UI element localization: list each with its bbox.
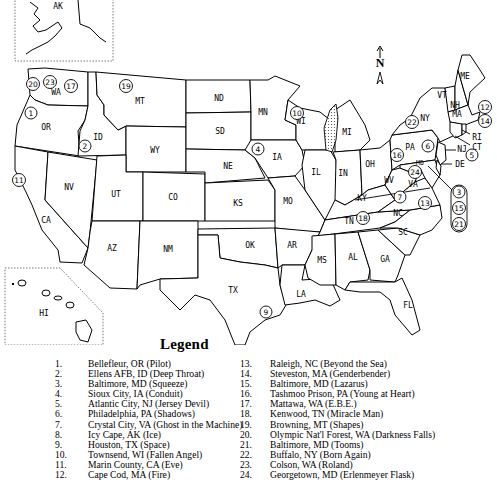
svg-text:16: 16 bbox=[392, 151, 402, 160]
svg-text:KS: KS bbox=[233, 199, 243, 208]
svg-text:12: 12 bbox=[480, 103, 490, 112]
hawaii-inset: HI bbox=[5, 268, 103, 345]
legend-item: 12.Cape Cod, MA (Fire) bbox=[55, 470, 242, 480]
marker-12[interactable]: 12 bbox=[479, 101, 492, 114]
marker-10[interactable]: 10 bbox=[291, 107, 304, 120]
compass: N bbox=[376, 46, 385, 84]
marker-3[interactable]: 3 bbox=[453, 186, 465, 198]
svg-text:ND: ND bbox=[214, 94, 224, 103]
state-ri bbox=[462, 124, 466, 135]
svg-text:MI: MI bbox=[342, 128, 352, 137]
svg-text:9: 9 bbox=[264, 308, 269, 317]
svg-text:MN: MN bbox=[258, 108, 268, 117]
svg-text:18: 18 bbox=[358, 214, 368, 223]
svg-text:CO: CO bbox=[168, 193, 178, 202]
legend-column-left: 1.Bellefleur, OR (Pilot) 2.Ellens AFB, I… bbox=[55, 359, 242, 480]
svg-text:NC: NC bbox=[393, 209, 403, 218]
svg-text:19: 19 bbox=[121, 82, 131, 91]
marker-6[interactable]: 6 bbox=[422, 140, 434, 152]
legend-item: 24.Georgetown, MD (Erlenmeyer Flask) bbox=[240, 470, 435, 480]
svg-text:13: 13 bbox=[420, 199, 430, 208]
marker-22[interactable]: 22 bbox=[406, 116, 419, 129]
svg-text:2: 2 bbox=[83, 142, 88, 151]
svg-text:RI: RI bbox=[472, 133, 482, 142]
svg-text:22: 22 bbox=[407, 118, 417, 127]
svg-text:TN: TN bbox=[344, 217, 354, 226]
marker-5[interactable]: 5 bbox=[466, 149, 478, 161]
svg-text:MO: MO bbox=[283, 197, 293, 206]
svg-text:MS: MS bbox=[317, 256, 327, 265]
marker-19[interactable]: 19 bbox=[120, 80, 133, 93]
marker-2[interactable]: 2 bbox=[79, 140, 91, 152]
svg-text:CA: CA bbox=[41, 216, 51, 225]
svg-text:21: 21 bbox=[454, 220, 464, 229]
svg-text:AL: AL bbox=[348, 253, 358, 262]
marker-24[interactable]: 24 bbox=[409, 166, 422, 179]
compass-n-label: N bbox=[376, 56, 385, 70]
svg-text:WY: WY bbox=[150, 146, 160, 155]
svg-text:FL: FL bbox=[403, 301, 413, 310]
marker-20[interactable]: 20 bbox=[27, 78, 40, 91]
marker-18[interactable]: 18 bbox=[357, 212, 370, 225]
svg-text:OR: OR bbox=[41, 123, 51, 132]
svg-text:15: 15 bbox=[454, 204, 464, 213]
marker-14[interactable]: 14 bbox=[479, 115, 492, 128]
marker-7[interactable]: 7 bbox=[394, 191, 406, 203]
marker-13[interactable]: 13 bbox=[419, 197, 432, 210]
states bbox=[15, 55, 485, 345]
svg-text:OK: OK bbox=[245, 241, 255, 250]
svg-text:NV: NV bbox=[64, 183, 74, 192]
svg-text:23: 23 bbox=[45, 78, 55, 87]
svg-text:20: 20 bbox=[28, 80, 38, 89]
marker-11[interactable]: 11 bbox=[13, 174, 26, 187]
svg-text:UT: UT bbox=[111, 190, 121, 199]
svg-text:NJ: NJ bbox=[457, 145, 467, 154]
svg-text:AR: AR bbox=[287, 241, 297, 250]
svg-text:IL: IL bbox=[311, 168, 321, 177]
svg-text:LA: LA bbox=[296, 290, 306, 299]
svg-text:14: 14 bbox=[480, 117, 490, 126]
svg-text:IN: IN bbox=[338, 169, 348, 178]
svg-text:ME: ME bbox=[460, 72, 470, 81]
svg-text:GA: GA bbox=[380, 255, 390, 264]
state-label-ak: AK bbox=[53, 2, 63, 11]
svg-text:NY: NY bbox=[420, 114, 430, 123]
svg-text:4: 4 bbox=[256, 145, 261, 154]
svg-text:17: 17 bbox=[66, 82, 76, 91]
svg-text:24: 24 bbox=[410, 168, 420, 177]
svg-text:NM: NM bbox=[163, 245, 173, 254]
svg-text:DE: DE bbox=[455, 160, 465, 169]
state-az bbox=[84, 221, 140, 289]
legend-title: Legend bbox=[160, 336, 209, 353]
svg-text:WV: WV bbox=[384, 176, 394, 185]
marker-4[interactable]: 4 bbox=[252, 143, 264, 155]
svg-text:AZ: AZ bbox=[107, 244, 117, 253]
marker-21[interactable]: 21 bbox=[453, 218, 466, 231]
svg-text:ID: ID bbox=[93, 133, 103, 142]
svg-text:VT: VT bbox=[437, 91, 447, 100]
svg-text:SC: SC bbox=[398, 228, 408, 237]
svg-text:10: 10 bbox=[292, 109, 302, 118]
us-map: AK HI bbox=[0, 0, 497, 345]
svg-text:IA: IA bbox=[272, 153, 282, 162]
legend-column-right: 13.Raleigh, NC (Beyond the Sea) 14.Steve… bbox=[240, 359, 435, 480]
marker-1[interactable]: 1 bbox=[25, 107, 37, 119]
svg-text:MT: MT bbox=[135, 97, 145, 106]
svg-text:6: 6 bbox=[426, 142, 431, 151]
marker-16[interactable]: 16 bbox=[391, 149, 404, 162]
alaska-inset: AK bbox=[15, 0, 113, 61]
state-mi bbox=[335, 100, 370, 152]
marker-17[interactable]: 17 bbox=[65, 80, 78, 93]
marker-15[interactable]: 15 bbox=[453, 202, 466, 215]
marker-23[interactable]: 23 bbox=[44, 76, 57, 89]
svg-text:1: 1 bbox=[29, 109, 34, 118]
svg-text:VA: VA bbox=[408, 180, 418, 189]
svg-text:11: 11 bbox=[14, 176, 24, 185]
svg-text:WA: WA bbox=[51, 88, 61, 97]
svg-text:NH: NH bbox=[450, 101, 460, 110]
marker-9[interactable]: 9 bbox=[260, 306, 272, 318]
svg-text:PA: PA bbox=[405, 143, 415, 152]
svg-text:5: 5 bbox=[470, 151, 475, 160]
svg-text:3: 3 bbox=[457, 188, 462, 197]
svg-text:MA: MA bbox=[452, 110, 462, 119]
